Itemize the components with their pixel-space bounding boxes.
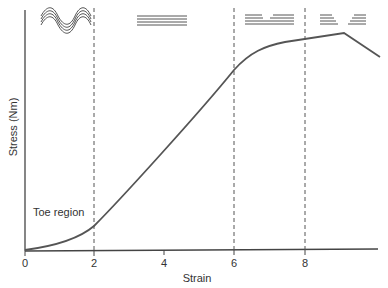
stress-strain-chart: 0 2 4 6 8 Strain Stress (Nm) Toe region (0, 0, 388, 288)
crimped-fibers-icon (41, 8, 91, 34)
straight-fibers-icon (137, 16, 187, 25)
x-tick-8: 8 (302, 257, 308, 269)
ruptured-fibers-icon (320, 15, 366, 24)
x-tick-6: 6 (231, 257, 237, 269)
x-tick-2: 2 (91, 257, 97, 269)
partial-rupture-fibers-icon (245, 15, 294, 24)
x-tick-0: 0 (22, 257, 28, 269)
x-axis-label: Strain (183, 272, 212, 284)
x-axis (25, 249, 378, 251)
y-axis-label: Stress (Nm) (7, 98, 19, 157)
x-tick-4: 4 (161, 257, 167, 269)
toe-region-label: Toe region (33, 206, 84, 218)
